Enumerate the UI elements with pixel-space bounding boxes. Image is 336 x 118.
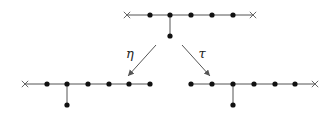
graph-bottom-right (188, 81, 318, 108)
branch-node-dot (167, 33, 172, 38)
node-dot (147, 81, 152, 86)
branch-node-dot (230, 102, 235, 107)
node-dot (251, 81, 256, 86)
node-dot (272, 81, 277, 86)
diagram-stage: ητ (0, 0, 336, 118)
node-dot (188, 12, 193, 17)
node-dot (64, 81, 69, 86)
node-dot (167, 12, 172, 17)
node-dot (106, 81, 111, 86)
diagram-canvas: ητ (0, 0, 336, 118)
arrow-label-eta: η (126, 46, 134, 61)
node-dot (209, 12, 214, 17)
node-dot (85, 81, 90, 86)
node-dot (44, 81, 49, 86)
arrow-eta: η (126, 45, 156, 76)
graph-top (124, 12, 256, 39)
node-dot (292, 81, 297, 86)
graph-bottom-left (22, 81, 153, 108)
node-dot (188, 81, 193, 86)
node-dot (209, 81, 214, 86)
arrows-layer: ητ (126, 45, 210, 76)
arrow-line (182, 45, 210, 76)
node-dot (147, 12, 152, 17)
node-dot (126, 81, 131, 86)
arrow-label-tau: τ (198, 46, 206, 61)
branch-node-dot (64, 102, 69, 107)
graphs-layer (22, 12, 318, 108)
node-dot (230, 81, 235, 86)
arrow-tau: τ (182, 45, 210, 76)
node-dot (230, 12, 235, 17)
